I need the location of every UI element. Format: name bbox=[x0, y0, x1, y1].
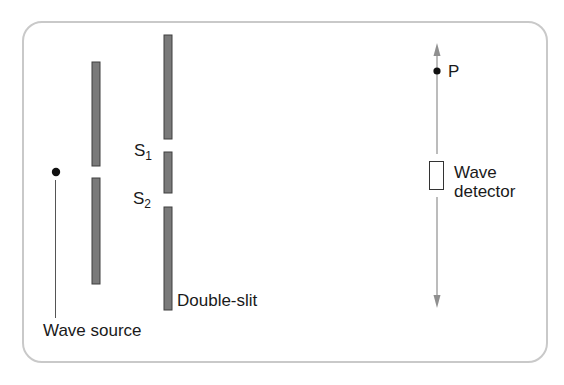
slit-s2-label: S2 bbox=[133, 190, 151, 208]
wave-source-label: Wave source bbox=[43, 322, 142, 340]
single-slit-barrier-bottom bbox=[92, 178, 100, 284]
wave-detector-label: Wave detector bbox=[454, 163, 515, 201]
double-slit-barrier bbox=[164, 35, 172, 310]
point-p-label: P bbox=[448, 63, 459, 81]
slit-s1-label: S1 bbox=[134, 142, 152, 160]
single-slit-barrier bbox=[92, 62, 100, 284]
double-slit-barrier-bottom bbox=[164, 207, 172, 310]
slit-s1-letter: S bbox=[134, 141, 145, 160]
double-slit-barrier-middle bbox=[164, 152, 172, 193]
slit-s1-subscript: 1 bbox=[145, 149, 152, 163]
wave-source-dot bbox=[52, 168, 60, 176]
single-slit-barrier-top bbox=[92, 62, 100, 166]
point-p-dot bbox=[433, 67, 440, 74]
slit-s2-subscript: 2 bbox=[144, 197, 151, 211]
slit-s2-letter: S bbox=[133, 189, 144, 208]
wave-detector-label-line2: detector bbox=[454, 182, 515, 201]
arrow-down-head-icon bbox=[434, 295, 441, 308]
wave-detector-box bbox=[430, 162, 444, 190]
double-slit-barrier-top bbox=[164, 35, 172, 139]
double-slit-label: Double-slit bbox=[177, 292, 257, 310]
arrow-up-head-icon bbox=[434, 43, 441, 56]
wave-detector-label-line1: Wave bbox=[454, 163, 515, 182]
